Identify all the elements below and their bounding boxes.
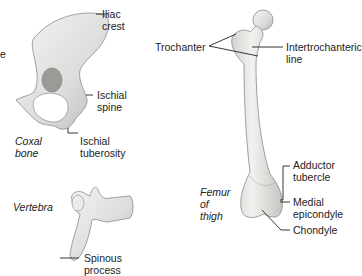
label-iliac-crest: Iliac crest [102, 8, 125, 32]
coxal-bone-drawing [16, 13, 109, 129]
label-chondyle: Chondyle [293, 224, 337, 236]
title-vertebra: Vertebra [13, 201, 53, 213]
label-ischial-tuberosity: Ischial tuberosity [80, 135, 126, 159]
label-intertrochanteric-line: Intertrochanteric line [286, 41, 362, 65]
label-ischial-spine: Ischial spine [97, 89, 127, 113]
title-coxal-bone: Coxal bone [15, 135, 42, 159]
label-adductor-tubercle: Adductor tubercle [293, 159, 335, 183]
femur-drawing [232, 10, 283, 218]
label-medial-epicondyle: Medial epicondyle [293, 196, 343, 220]
vertebra-drawing [70, 187, 133, 260]
label-spinous-process: Spinous process [84, 252, 122, 276]
title-femur-of-thigh: Femur of thigh [200, 186, 230, 222]
edge-text-fragment: e [0, 48, 6, 60]
label-trochanter: Trochanter [155, 41, 205, 53]
